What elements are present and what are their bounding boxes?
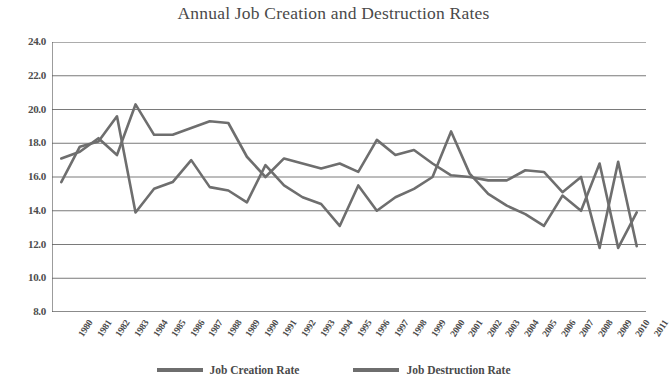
x-axis-tick-label: 1980 xyxy=(77,318,95,339)
x-axis-tick-label: 2011 xyxy=(652,318,670,338)
y-axis-tick-label: 24.0 xyxy=(0,35,46,47)
x-axis-tick-label: 1994 xyxy=(336,318,354,339)
x-axis-tick-label: 1991 xyxy=(281,318,299,339)
legend-label-job-creation-rate: Job Creation Rate xyxy=(210,364,300,376)
legend-swatch-job-destruction-rate xyxy=(353,368,399,372)
x-axis-tick-label: 2005 xyxy=(541,318,559,339)
x-axis-tick-label: 1997 xyxy=(392,318,410,339)
x-axis-tick-label: 1996 xyxy=(374,318,392,339)
x-axis-tick-label: 1989 xyxy=(244,318,262,339)
x-axis-tick-label: 2004 xyxy=(522,318,540,339)
y-axis-tick-label: 18.0 xyxy=(0,136,46,148)
x-axis-tick-label: 1982 xyxy=(114,318,132,339)
legend-label-job-destruction-rate: Job Destruction Rate xyxy=(406,364,510,376)
x-axis-tick-label: 1990 xyxy=(262,318,280,339)
x-axis-tick-label: 1992 xyxy=(299,318,317,339)
x-axis-tick-label: 1999 xyxy=(429,318,447,339)
x-axis-tick-label: 1985 xyxy=(169,318,187,339)
x-axis-tick-label: 2002 xyxy=(485,318,503,339)
x-axis-tick-label: 2006 xyxy=(559,318,577,339)
x-axis-tick-label: 1995 xyxy=(355,318,373,339)
x-axis-tick-label: 2001 xyxy=(466,318,484,339)
chart-legend: Job Creation Rate Job Destruction Rate xyxy=(0,364,667,376)
y-axis-tick-label: 22.0 xyxy=(0,69,46,81)
x-axis-tick-label: 2010 xyxy=(633,318,651,339)
gridlines-group xyxy=(52,42,646,312)
x-axis-tick-label: 1993 xyxy=(318,318,336,339)
x-axis-tick-label: 2003 xyxy=(504,318,522,339)
x-axis-tick-label: 1988 xyxy=(225,318,243,339)
y-axis-tick-label: 10.0 xyxy=(0,271,46,283)
series-line-job-creation-rate xyxy=(61,104,636,247)
x-axis-tick-label: 2009 xyxy=(615,318,633,339)
series-line-job-destruction-rate xyxy=(61,116,636,248)
x-axis-tick-label: 1986 xyxy=(188,318,206,339)
plot-area xyxy=(52,42,646,312)
chart-title: Annual Job Creation and Destruction Rate… xyxy=(0,3,667,24)
plot-svg xyxy=(52,42,646,312)
x-axis-tick-label: 1981 xyxy=(95,318,113,339)
legend-swatch-job-creation-rate xyxy=(157,368,203,372)
x-axis-tick-label: 1998 xyxy=(411,318,429,339)
y-axis-tick-label: 12.0 xyxy=(0,238,46,250)
y-axis-tick-label: 14.0 xyxy=(0,204,46,216)
x-axis-tick-label: 1984 xyxy=(151,318,169,339)
y-axis-tick-label: 8.0 xyxy=(0,305,46,317)
x-axis-tick-label: 2000 xyxy=(448,318,466,339)
legend-item-job-destruction-rate: Job Destruction Rate xyxy=(353,364,510,376)
x-axis-tick-label: 2007 xyxy=(578,318,596,339)
x-axis-tick-label: 1983 xyxy=(132,318,150,339)
data-series-group xyxy=(61,104,636,247)
x-axis-tick-label: 1987 xyxy=(207,318,225,339)
x-axis-tick-label: 2008 xyxy=(596,318,614,339)
y-axis-tick-label: 16.0 xyxy=(0,170,46,182)
y-axis-tick-label: 20.0 xyxy=(0,103,46,115)
legend-item-job-creation-rate: Job Creation Rate xyxy=(157,364,300,376)
